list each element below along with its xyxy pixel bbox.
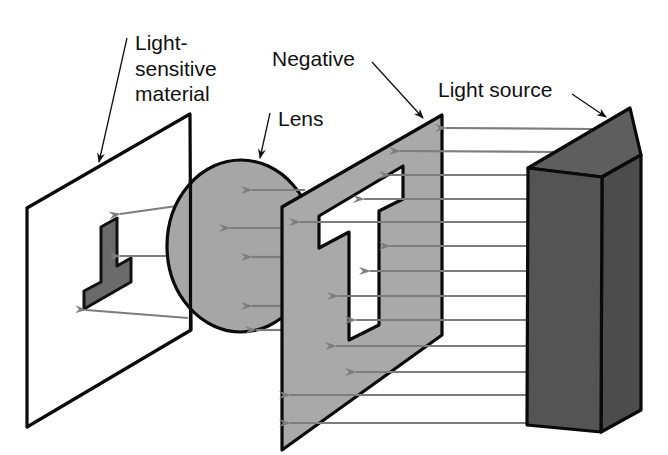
label-lens-text: Lens: [278, 107, 324, 130]
label-material-line1: Light-: [135, 31, 188, 54]
negative: [282, 115, 442, 450]
label-light-source-text: Light source: [438, 78, 552, 101]
label-negative-text: Negative: [272, 47, 355, 70]
label-light-source: Light source: [438, 78, 606, 117]
negative-sheet: [282, 115, 442, 450]
label-lens: Lens: [260, 107, 324, 158]
light-source: [527, 108, 641, 432]
light-source-side: [601, 155, 641, 432]
light-sensitive-material: [27, 114, 191, 427]
label-material-line2: sensitive: [135, 57, 217, 80]
label-material-line3: material: [135, 82, 210, 105]
diagram-canvas: Light- sensitive material Lens Negative …: [0, 0, 668, 455]
photographic-printing-diagram: Light- sensitive material Lens Negative …: [0, 0, 668, 455]
light-source-front: [527, 168, 602, 432]
